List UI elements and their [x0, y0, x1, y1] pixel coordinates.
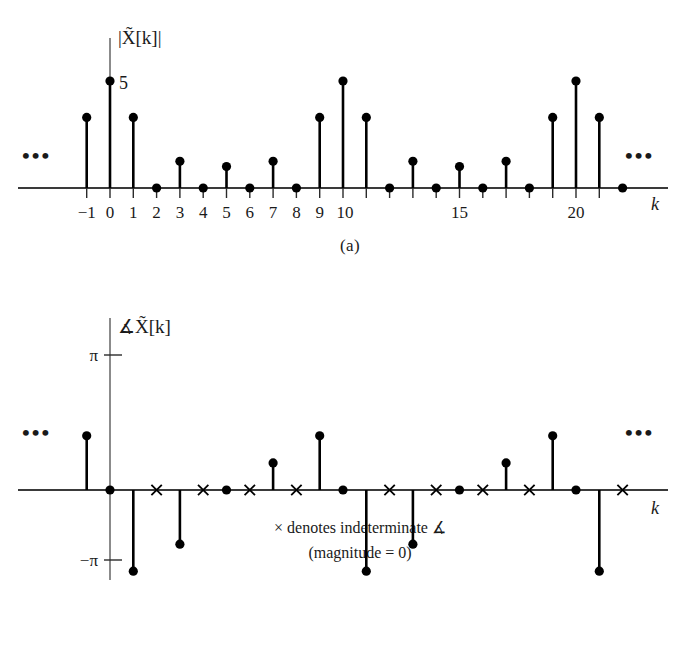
magnitude-tick-label: 15 [451, 203, 468, 222]
magnitude-tick-label: 3 [176, 203, 185, 222]
phase-stem-dot [595, 567, 604, 576]
magnitude-stem-dot [82, 113, 91, 122]
phase-stem-dot [548, 431, 557, 440]
magnitude-stem-dot [362, 113, 371, 122]
magnitude-stem-dot [385, 183, 394, 192]
magnitude-stem-dot [618, 183, 627, 192]
magnitude-x-axis-label: k [651, 194, 660, 214]
magnitude-ellipsis-left: ••• [22, 143, 51, 168]
magnitude-stem-dot [175, 157, 184, 166]
phase-ellipsis-left: ••• [22, 420, 51, 445]
phase-stem-dot [129, 567, 138, 576]
magnitude-peak-label: 5 [119, 73, 128, 93]
phase-ellipsis-right: ••• [625, 420, 654, 445]
phase-stem-dot [105, 485, 114, 494]
magnitude-stem-dot [245, 183, 254, 192]
magnitude-plot-panel: |X̃[k]| 5 k ••• ••• [0, 0, 700, 285]
magnitude-stem-dot [408, 157, 417, 166]
magnitude-stem-dot [222, 162, 231, 171]
phase-stem-dot [362, 567, 371, 576]
magnitude-stem-dot [129, 113, 138, 122]
phase-x-axis-label: k [651, 498, 660, 518]
magnitude-stem-dot [502, 157, 511, 166]
magnitude-tick-labels: −1 0 1 2 3 4 5 6 7 8 9 10 15 20 [78, 203, 585, 222]
magnitude-stem-dot [199, 183, 208, 192]
magnitude-stem-dot [571, 76, 580, 85]
phase-stem-dot [222, 485, 231, 494]
phase-note-line-2: (magnitude = 0) [308, 544, 411, 562]
magnitude-stem-dot [152, 183, 161, 192]
magnitude-stem-dot [455, 162, 464, 171]
phase-y-axis-label: ∡X̃[k] [118, 315, 171, 337]
magnitude-stem-dot [432, 183, 441, 192]
phase-stem-dot [338, 485, 347, 494]
phase-stem-dot [571, 485, 580, 494]
phase-stem-dot [315, 431, 324, 440]
magnitude-tick-label: 2 [152, 203, 161, 222]
phase-neg-pi-label: −π [80, 551, 99, 570]
magnitude-stem-dot [548, 113, 557, 122]
magnitude-stem-dot [525, 183, 534, 192]
magnitude-tick-label: 7 [269, 203, 278, 222]
phase-stem-dot [502, 458, 511, 467]
magnitude-tick-label: 9 [315, 203, 324, 222]
magnitude-tick-marks [87, 188, 600, 198]
phase-stem-dot [408, 540, 417, 549]
magnitude-stem-dot [105, 76, 114, 85]
magnitude-stem-dot [292, 183, 301, 192]
figure-caption-a: (a) [0, 236, 700, 256]
magnitude-stem-dot [478, 183, 487, 192]
magnitude-stem-dot [338, 76, 347, 85]
phase-stem-dot [175, 540, 184, 549]
magnitude-tick-label: 8 [292, 203, 301, 222]
magnitude-tick-label: 20 [568, 203, 585, 222]
phase-stem-dot [455, 485, 464, 494]
magnitude-tick-label: 5 [222, 203, 231, 222]
magnitude-ellipsis-right: ••• [625, 143, 654, 168]
magnitude-stem-dot [315, 113, 324, 122]
magnitude-tick-label: 1 [129, 203, 138, 222]
phase-stem-dot [269, 458, 278, 467]
phase-note-line-1: × denotes indeterminate ∡ [274, 519, 446, 536]
phase-plot-panel: ∡X̃[k] π −π k ••• ••• × denotes indeterm… [0, 290, 700, 648]
magnitude-stem-dot [595, 113, 604, 122]
magnitude-tick-label: 4 [199, 203, 208, 222]
phase-pi-label: π [89, 346, 98, 365]
magnitude-tick-label: 0 [106, 203, 115, 222]
magnitude-tick-label: −1 [78, 203, 96, 222]
magnitude-tick-label: 10 [337, 203, 354, 222]
magnitude-stem-group [82, 76, 627, 192]
dfs-magnitude-phase-figure: |X̃[k]| 5 k ••• ••• [0, 0, 700, 648]
magnitude-tick-label: 6 [246, 203, 255, 222]
magnitude-stem-dot [269, 157, 278, 166]
phase-plot-svg: ∡X̃[k] π −π k ••• ••• × denotes indeterm… [0, 290, 700, 648]
phase-stem-dot [82, 431, 91, 440]
magnitude-y-axis-label: |X̃[k]| [118, 26, 161, 48]
